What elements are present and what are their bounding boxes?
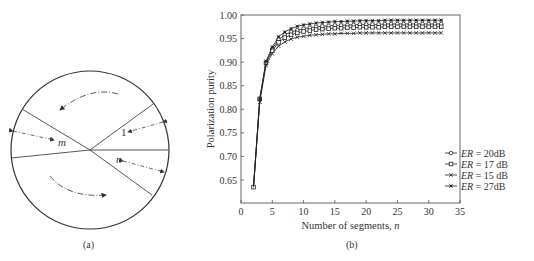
n-dimension-arrow: [123, 161, 164, 172]
svg-text:ER = 15 dB: ER = 15 dB: [460, 170, 508, 181]
legend-item: ER = 20dB: [445, 148, 506, 159]
figure-b-chart: 051015202530350.650.700.750.800.850.900.…: [200, 0, 534, 261]
svg-text:ER = 17 dB: ER = 17 dB: [460, 159, 508, 170]
svg-text:0.70: 0.70: [220, 151, 238, 162]
figure-a-diagram: m 1 n (a): [0, 0, 200, 261]
svg-text:0.90: 0.90: [220, 57, 238, 68]
label-n: n: [116, 153, 122, 165]
legend-item: ER = 17 dB: [445, 159, 508, 170]
label-m: m: [58, 136, 66, 148]
m-dimension-arrow: [13, 131, 54, 140]
svg-text:30: 30: [424, 206, 434, 217]
svg-text:0.80: 0.80: [220, 104, 238, 115]
series-circle: [254, 22, 444, 187]
svg-text:0.85: 0.85: [220, 80, 238, 91]
caption-a: (a): [83, 239, 94, 250]
chart-axes: 051015202530350.650.700.750.800.850.900.…: [205, 10, 465, 232]
svg-text:20: 20: [361, 206, 371, 217]
svg-text:ER = 27dB: ER = 27dB: [460, 181, 506, 192]
svg-text:15: 15: [330, 206, 340, 217]
caption-b: (b): [346, 239, 358, 250]
svg-text:Number of segments, n: Number of segments, n: [302, 220, 400, 231]
polarization-purity-chart: 051015202530350.650.700.750.800.850.900.…: [200, 0, 534, 261]
chart-legend: ER = 20dBER = 17 dBER = 15 dBER = 27dB: [445, 148, 508, 192]
sector-diagram: m 1 n: [0, 0, 200, 261]
svg-text:25: 25: [392, 206, 402, 217]
svg-text:35: 35: [455, 206, 465, 217]
series-square: [252, 25, 443, 189]
svg-text:0.75: 0.75: [220, 127, 238, 138]
one-dimension-arrow: [128, 122, 163, 132]
rotation-arrow-top: [60, 92, 118, 110]
svg-text:10: 10: [299, 206, 309, 217]
legend-item: ER = 27dB: [445, 181, 506, 192]
svg-text:0.95: 0.95: [220, 33, 238, 44]
svg-text:ER = 20dB: ER = 20dB: [460, 148, 506, 159]
label-1: 1: [121, 126, 127, 138]
chart-series: [252, 18, 443, 188]
svg-text:Polarization purity: Polarization purity: [205, 69, 216, 148]
rotation-arrow-bottom: [50, 176, 106, 195]
svg-text:0: 0: [239, 206, 244, 217]
svg-text:5: 5: [270, 206, 275, 217]
series-x: [254, 31, 444, 187]
legend-item: ER = 15 dB: [445, 170, 508, 181]
svg-text:0.65: 0.65: [220, 175, 238, 186]
svg-text:1.00: 1.00: [220, 10, 238, 21]
